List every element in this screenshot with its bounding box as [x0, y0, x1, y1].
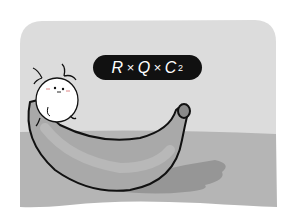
- banana-stem: [178, 104, 190, 118]
- formula-times-2: ×: [154, 60, 162, 75]
- formula-times-1: ×: [127, 60, 135, 75]
- formula-label: R × Q × C2: [93, 55, 202, 80]
- formula-c: C: [165, 59, 177, 77]
- formula-subscript: 2: [178, 63, 184, 73]
- formula-q: Q: [138, 59, 151, 77]
- formula-r: R: [112, 59, 124, 77]
- illustration-panel: [0, 0, 293, 224]
